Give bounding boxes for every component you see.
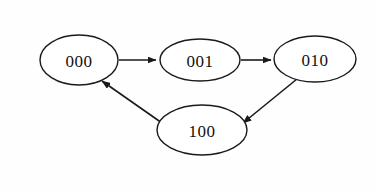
node-001[interactable]: 001 (160, 39, 240, 81)
diagram-canvas: 000 001 010 100 (0, 0, 375, 194)
node-010[interactable]: 010 (274, 36, 356, 82)
node-100-label: 100 (189, 122, 216, 141)
node-010-label: 010 (302, 51, 329, 70)
node-000-label: 000 (66, 52, 93, 71)
state-transition-diagram: 000 001 010 100 (0, 0, 375, 194)
edge-010-to-100[interactable] (243, 79, 297, 123)
edge-100-to-000[interactable] (102, 81, 162, 123)
node-100[interactable]: 100 (157, 105, 247, 155)
node-001-label: 001 (187, 52, 214, 71)
node-000[interactable]: 000 (40, 35, 118, 85)
